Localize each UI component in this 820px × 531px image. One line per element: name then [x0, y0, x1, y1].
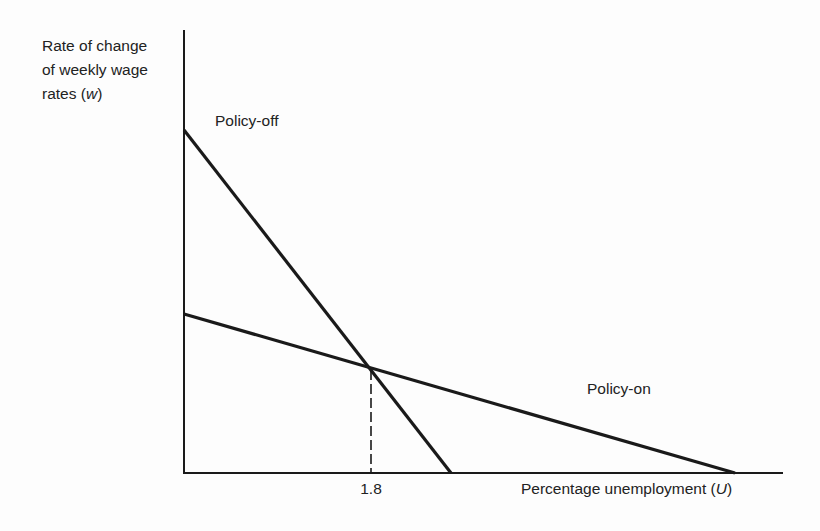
x-axis-variable: U — [716, 480, 727, 497]
policy-off-label: Policy-off — [215, 112, 278, 130]
policy-off-line — [184, 130, 451, 473]
x-tick-label-1-8: 1.8 — [360, 480, 382, 498]
policy-on-label: Policy-on — [587, 380, 651, 398]
y-axis-label-line-1: Rate of change — [42, 34, 148, 58]
y-axis-label: Rate of change of weekly wage rates (w) — [42, 34, 148, 106]
y-axis-label-line-2: of weekly wage — [42, 58, 148, 82]
y-axis-variable: w — [86, 85, 97, 102]
x-axis-label-text: Percentage unemployment ( — [521, 480, 716, 497]
policy-on-line — [184, 314, 735, 473]
x-axis-label: Percentage unemployment (U) — [521, 480, 732, 498]
phillips-curve-figure: Rate of change of weekly wage rates (w) … — [0, 0, 820, 531]
y-axis-label-line-3-text: rates ( — [42, 85, 86, 102]
y-axis-label-line-3: rates (w) — [42, 82, 148, 106]
